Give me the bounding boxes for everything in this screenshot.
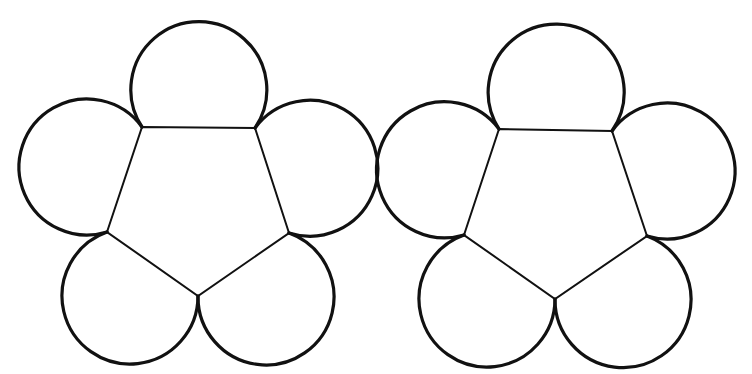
petal-arc	[62, 232, 198, 364]
pentagon	[107, 127, 289, 296]
petal-arc	[612, 103, 735, 239]
petal-arc	[419, 235, 555, 367]
petal-arc	[198, 233, 334, 365]
diagram-canvas	[0, 0, 752, 374]
petal-arc	[488, 24, 624, 131]
left-flower	[19, 22, 378, 365]
petal-arc	[131, 22, 267, 128]
petal-arc	[377, 102, 499, 238]
pentagon	[464, 129, 647, 299]
petal-arc	[555, 236, 691, 368]
right-flower	[377, 24, 735, 367]
petal-arc	[19, 99, 142, 235]
petal-arc	[255, 100, 378, 236]
pentagon-flower-diagram	[0, 0, 752, 374]
